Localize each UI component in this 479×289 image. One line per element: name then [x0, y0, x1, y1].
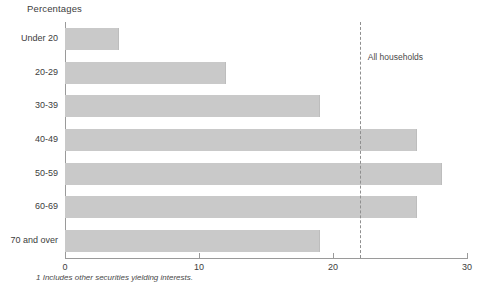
bar	[65, 62, 226, 84]
x-tick-label: 30	[462, 262, 472, 272]
x-axis-line	[65, 258, 467, 259]
footnote-text: Includes other securities yielding inter…	[43, 273, 193, 282]
bar	[65, 28, 119, 50]
bar	[65, 95, 320, 117]
category-label: 70 and over	[0, 235, 58, 245]
all-households-label: All households	[368, 52, 423, 62]
category-label: 50-59	[0, 168, 58, 178]
bar	[65, 196, 417, 218]
footnote: 1 Includes other securities yielding int…	[36, 273, 193, 282]
chart-title: Percentages	[27, 3, 82, 14]
x-tick	[199, 253, 200, 259]
bar	[65, 230, 320, 252]
category-label: 20-29	[0, 67, 58, 77]
footnote-marker: 1	[36, 273, 40, 282]
category-label: 40-49	[0, 134, 58, 144]
x-tick-label: 10	[194, 262, 204, 272]
x-tick-label: 0	[62, 262, 67, 272]
x-tick	[333, 253, 334, 259]
category-label: 30-39	[0, 100, 58, 110]
category-label: Under 20	[0, 33, 58, 43]
x-tick-label: 20	[328, 262, 338, 272]
category-label: 60-69	[0, 201, 58, 211]
bar-chart: Percentages Under 2020-2930-3940-4950-59…	[0, 0, 479, 289]
x-tick	[65, 253, 66, 259]
x-tick	[467, 253, 468, 259]
bar	[65, 163, 442, 185]
all-households-reference-line	[360, 22, 361, 258]
bar	[65, 129, 417, 151]
